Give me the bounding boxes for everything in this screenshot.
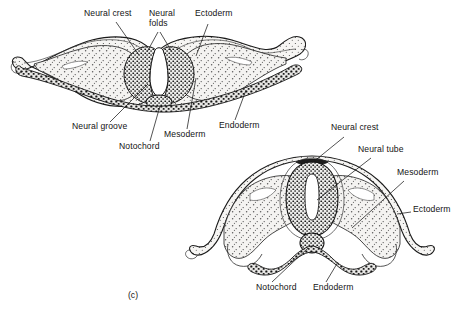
label-ectoderm-upper: Ectoderm bbox=[195, 8, 233, 18]
label-neural-groove-upper: Neural groove bbox=[72, 121, 127, 131]
leader-endoderm-lower bbox=[326, 262, 338, 282]
label-mesoderm-lower: Mesoderm bbox=[397, 167, 438, 177]
label-neural-crest-lower: Neural crest bbox=[331, 122, 379, 132]
neurulation-figure: Neural crest Neural folds Ectoderm Neura… bbox=[0, 0, 471, 310]
lower-endoderm-band bbox=[248, 246, 376, 275]
label-endoderm-upper: Endoderm bbox=[219, 120, 259, 130]
lower-neural-tube bbox=[280, 158, 344, 240]
label-notochord-lower: Notochord bbox=[256, 282, 297, 292]
label-ectoderm-lower: Ectoderm bbox=[413, 204, 451, 214]
label-endoderm-lower: Endoderm bbox=[313, 282, 353, 292]
label-neural-folds-upper: Neural folds bbox=[149, 8, 183, 28]
label-neural-tube-lower: Neural tube bbox=[358, 144, 404, 154]
lower-endoderm bbox=[248, 246, 376, 275]
lower-panel-drawing bbox=[186, 137, 435, 282]
leader-notochord-lower bbox=[272, 248, 308, 282]
neurulation-diagram-svg bbox=[0, 0, 471, 310]
label-mesoderm-upper: Mesoderm bbox=[164, 129, 205, 139]
label-neural-crest-upper: Neural crest bbox=[84, 8, 132, 18]
lower-neural-tube-lumen bbox=[305, 174, 319, 220]
label-notochord-upper: Notochord bbox=[119, 141, 160, 151]
upper-panel-drawing bbox=[11, 22, 308, 141]
panel-caption-letter: (c) bbox=[128, 290, 138, 300]
